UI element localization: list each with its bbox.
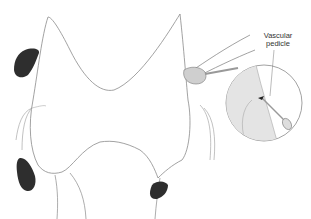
left-vessel-1	[16, 108, 32, 140]
thyroid-gland-outline	[30, 14, 190, 178]
parathyroid-lower-right	[150, 182, 168, 199]
right-vessel-1	[200, 105, 211, 160]
trachea-line-mid	[70, 173, 86, 219]
right-vessel-2	[204, 108, 215, 160]
label-line-2: pedicle	[256, 40, 300, 48]
parathyroid-upper-left	[14, 49, 39, 78]
vascular-pedicle-label: Vascular pedicle	[256, 32, 300, 48]
trachea-line-left	[55, 175, 58, 219]
upper-parathyroid-grasped	[184, 67, 206, 84]
parathyroid-lower-left	[17, 158, 36, 191]
vascular-pedicle-strand	[205, 68, 238, 74]
